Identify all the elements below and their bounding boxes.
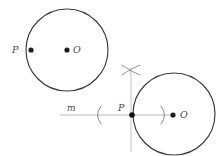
geometry-figure: P O m P O <box>0 0 221 156</box>
point-P-bottom-dot <box>129 112 135 118</box>
point-P-top-dot <box>28 47 33 52</box>
label-center-O-top: O <box>73 45 81 55</box>
construction-guides <box>60 68 172 152</box>
bottom-circle-group <box>129 73 215 155</box>
top-circle-group <box>26 9 108 91</box>
label-point-P-top: P <box>12 45 18 55</box>
center-point-O-bottom-dot <box>170 112 175 117</box>
label-line-m: m <box>67 104 76 113</box>
label-point-P-bottom: P <box>118 103 124 113</box>
label-center-O-bottom: O <box>180 110 188 120</box>
center-point-O-top-dot <box>64 47 69 52</box>
geometry-canvas <box>0 0 221 156</box>
